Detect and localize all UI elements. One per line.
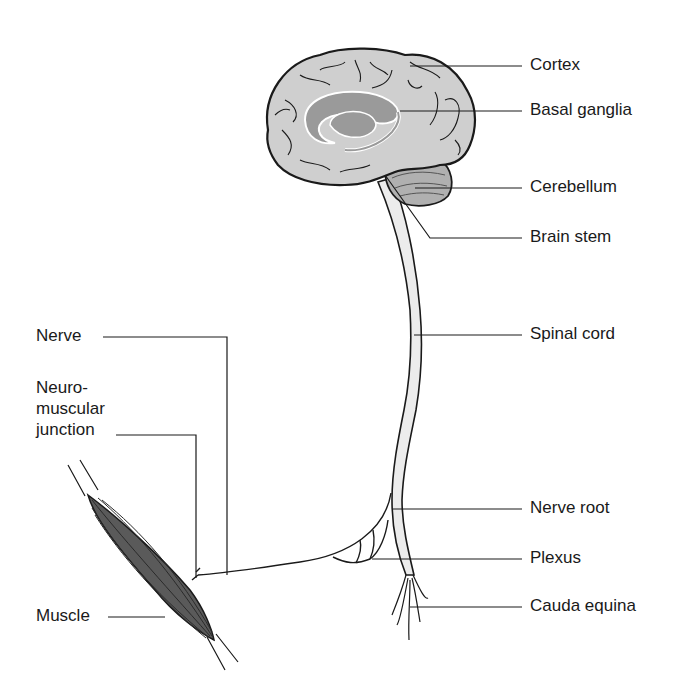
label-neuromuscular-junction: Neuro- muscular junction xyxy=(36,377,105,440)
label-brain-stem: Brain stem xyxy=(530,227,611,247)
label-muscle: Muscle xyxy=(36,606,90,626)
label-cauda-equina: Cauda equina xyxy=(530,596,636,616)
label-cortex: Cortex xyxy=(530,55,580,75)
spinal-cord-shape xyxy=(378,178,421,575)
label-cerebellum: Cerebellum xyxy=(530,177,617,197)
label-nerve: Nerve xyxy=(36,326,81,346)
label-plexus: Plexus xyxy=(530,548,581,568)
plexus-and-nerve-shape xyxy=(192,493,391,580)
label-basal-ganglia: Basal ganglia xyxy=(530,100,632,120)
label-nerve-root: Nerve root xyxy=(530,498,609,518)
muscle-shape xyxy=(68,460,238,670)
label-spinal-cord: Spinal cord xyxy=(530,324,615,344)
